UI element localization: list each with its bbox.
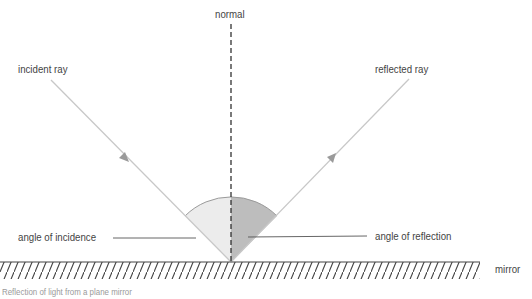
reflection-angle-sector bbox=[231, 197, 277, 262]
figure-caption: Reflection of light from a plane mirror bbox=[2, 287, 132, 297]
incidence-angle-sector bbox=[185, 197, 231, 262]
mirror-label: mirror bbox=[495, 263, 520, 275]
incident-ray-label: incident ray bbox=[18, 63, 68, 75]
reflection-leader-line bbox=[248, 236, 367, 237]
angle-of-incidence-label: angle of incidence bbox=[18, 231, 96, 243]
mirror-hatching bbox=[0, 262, 480, 279]
angle-of-reflection-label: angle of reflection bbox=[375, 230, 451, 242]
normal-label: normal bbox=[215, 8, 245, 20]
reflected-ray-label: reflected ray bbox=[375, 63, 428, 75]
